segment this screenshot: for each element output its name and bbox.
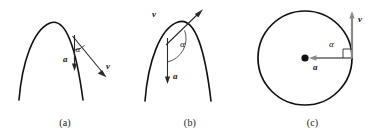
angle-label-a: α: [76, 44, 81, 54]
acceleration-label-a: a: [63, 54, 68, 64]
center-dot-c: [301, 54, 308, 61]
angle-label-b: α: [180, 39, 185, 49]
velocity-arrow-c: [349, 11, 354, 58]
physics-figure: a v α (a) a: [0, 0, 377, 133]
caption-c: (c): [248, 117, 377, 128]
acceleration-arrow-b: [165, 38, 170, 84]
panel-b: a v α (b): [125, 0, 255, 133]
panel-b-diagram: a v α: [125, 0, 255, 120]
panel-c-diagram: a v α: [248, 0, 377, 120]
acceleration-arrow-c: [309, 55, 352, 60]
angle-label-c: α: [329, 39, 334, 49]
panel-a-diagram: a v α: [0, 0, 130, 120]
acceleration-label-c: a: [313, 62, 318, 72]
panel-a: a v α (a): [0, 0, 130, 133]
acceleration-label-b: a: [173, 71, 178, 81]
velocity-label-a: v: [106, 61, 111, 71]
parabola-curve-a: [19, 22, 83, 100]
panel-c: a v α (c): [248, 0, 377, 133]
velocity-label-b: v: [152, 9, 157, 19]
caption-a: (a): [0, 117, 130, 128]
caption-b: (b): [125, 117, 255, 128]
velocity-label-c: v: [358, 14, 363, 24]
